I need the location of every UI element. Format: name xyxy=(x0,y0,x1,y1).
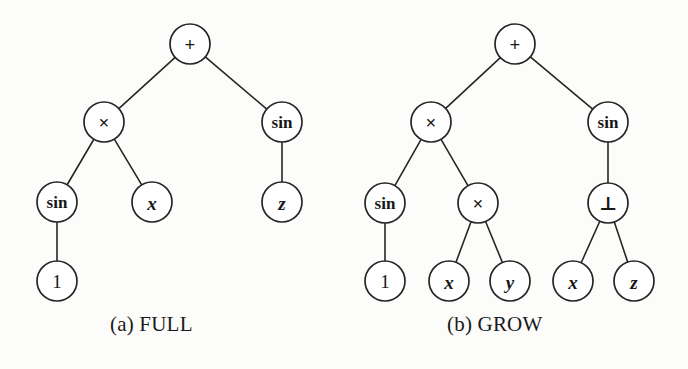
tree-node-b-sin2: sin xyxy=(365,183,405,223)
expression-trees-svg: +×sinsinxz1+×sinsin×⊥1xyxz xyxy=(0,0,688,369)
node-label: y xyxy=(504,272,515,293)
node-label: × xyxy=(473,193,484,214)
tree-figure: +×sinsinxz1+×sinsin×⊥1xyxz (a) FULL (b) … xyxy=(0,0,688,369)
tree-node-b-x1: x xyxy=(429,261,469,301)
tree-node-a-z: z xyxy=(262,182,302,222)
tree-edge xyxy=(446,58,501,109)
tree-node-a-root: + xyxy=(170,24,210,64)
tree-node-a-x: x xyxy=(132,182,172,222)
node-label: x xyxy=(146,193,157,214)
caption-full: (a) FULL xyxy=(110,312,193,337)
node-label: + xyxy=(510,34,521,55)
node-label: x xyxy=(567,272,578,293)
tree-node-b-mul1: × xyxy=(411,102,451,142)
tree-edges-full xyxy=(57,57,282,261)
tree-node-b-z: z xyxy=(614,261,654,301)
tree-node-a-one: 1 xyxy=(37,261,77,301)
tree-node-b-sin1: sin xyxy=(588,102,628,142)
tree-edge xyxy=(581,221,600,263)
node-label: sin xyxy=(375,194,396,213)
node-label: z xyxy=(277,193,286,214)
node-label: sin xyxy=(272,113,293,132)
caption-grow: (b) GROW xyxy=(447,312,543,337)
tree-node-a-sin2: sin xyxy=(37,182,77,222)
tree-edge xyxy=(456,222,471,263)
node-label: × xyxy=(426,112,437,133)
tree-edge xyxy=(486,222,503,263)
node-label: sin xyxy=(47,193,68,212)
tree-edge xyxy=(614,222,627,262)
node-label: ⊥ xyxy=(599,193,617,214)
tree-node-b-bot: ⊥ xyxy=(588,183,628,223)
node-label: + xyxy=(185,34,196,55)
node-label: z xyxy=(629,272,638,293)
tree-node-b-one: 1 xyxy=(365,261,405,301)
tree-edge xyxy=(119,57,175,108)
node-label: × xyxy=(99,112,110,133)
tree-edge xyxy=(114,139,141,185)
node-label: x xyxy=(443,272,454,293)
tree-edge xyxy=(67,139,94,185)
tree-edge xyxy=(205,57,266,109)
node-label: 1 xyxy=(52,271,62,292)
tree-edges-grow xyxy=(385,57,628,263)
tree-nodes-full: +×sinsinxz1 xyxy=(37,24,302,301)
tree-node-b-mul2: × xyxy=(458,183,498,223)
tree-edge xyxy=(441,139,468,185)
tree-node-b-x2: x xyxy=(553,261,593,301)
tree-node-b-y: y xyxy=(490,261,530,301)
tree-node-b-root: + xyxy=(495,24,535,64)
node-label: sin xyxy=(598,113,619,132)
tree-node-a-mul: × xyxy=(84,102,124,142)
tree-node-a-sin1: sin xyxy=(262,102,302,142)
tree-edge xyxy=(530,57,592,109)
node-label: 1 xyxy=(380,271,390,292)
tree-edge xyxy=(395,139,421,185)
